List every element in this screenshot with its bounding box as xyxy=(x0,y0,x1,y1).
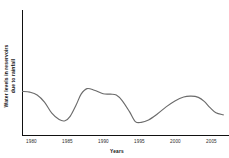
x-tick-label-2000: 2000 xyxy=(170,139,181,144)
x-tick-label-2005: 2005 xyxy=(206,139,217,144)
x-tick-label-1990: 1990 xyxy=(98,139,109,144)
line-chart: 1980 1985 1990 1995 2000 2005 Years Wate… xyxy=(0,0,229,158)
x-tick-label-1985: 1985 xyxy=(62,139,73,144)
data-series-line xyxy=(23,88,224,122)
x-tick-label-1980: 1980 xyxy=(26,139,37,144)
x-axis-title: Years xyxy=(110,149,124,154)
chart-container: 1980 1985 1990 1995 2000 2005 Years Wate… xyxy=(0,0,229,158)
y-axis-title-line1: Water levels in reservoirs xyxy=(3,44,9,107)
y-axis-title-line2: due to rainfall xyxy=(10,58,16,93)
x-tick-label-1995: 1995 xyxy=(134,139,145,144)
